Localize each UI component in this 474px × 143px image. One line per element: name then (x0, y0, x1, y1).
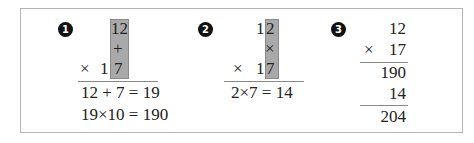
column-operator-2: × (265, 40, 275, 58)
partial-product-3: 190 (360, 64, 406, 82)
column-bottom-2: 7 (266, 60, 275, 78)
step-badge-3: 3 (331, 22, 346, 37)
step-badge-1: 1 (58, 22, 73, 37)
divider-line-1 (78, 81, 158, 82)
step-text-1b: 19×10 = 190 (81, 106, 168, 124)
tens-digit-2: 1 (256, 20, 265, 38)
multiply-sign-2: × (233, 60, 243, 78)
multiply-sign-1: × (80, 60, 90, 78)
addend-3: 14 (360, 85, 406, 103)
multiplicand-3: 12 (360, 20, 406, 38)
column-operator-1: + (113, 40, 123, 58)
column-top-1: 12 (111, 20, 128, 38)
multiplier-digit-1: 1 (100, 60, 109, 78)
final-result-3: 204 (360, 108, 406, 126)
multiplier-3: 17 (360, 41, 406, 59)
column-top-2: 2 (266, 20, 275, 38)
column-bottom-1: 7 (114, 60, 123, 78)
divider-line-2 (224, 81, 304, 82)
step-badge-2: 2 (198, 22, 213, 37)
divider-line-3b (360, 105, 408, 106)
step-text-2a: 2×7 = 14 (231, 84, 293, 102)
step-text-1a: 12 + 7 = 19 (81, 84, 160, 102)
multiplier-digit-2: 1 (256, 60, 265, 78)
